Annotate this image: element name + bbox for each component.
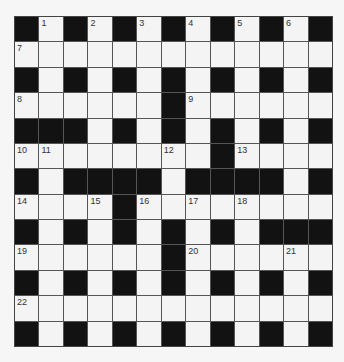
grid-cell[interactable]: [260, 195, 283, 219]
grid-cell[interactable]: 7: [15, 42, 38, 66]
grid-cell[interactable]: [162, 195, 185, 219]
grid-cell[interactable]: 17: [186, 195, 209, 219]
grid-cell[interactable]: [64, 195, 87, 219]
grid-cell[interactable]: [186, 68, 209, 92]
grid-cell[interactable]: [39, 220, 62, 244]
grid-cell[interactable]: [260, 93, 283, 117]
grid-cell[interactable]: [309, 245, 332, 269]
grid-cell[interactable]: [186, 220, 209, 244]
grid-cell[interactable]: 12: [162, 144, 185, 168]
grid-cell[interactable]: [39, 195, 62, 219]
grid-cell[interactable]: [113, 42, 136, 66]
grid-cell[interactable]: [235, 296, 258, 320]
grid-cell[interactable]: [186, 42, 209, 66]
grid-cell[interactable]: [260, 42, 283, 66]
grid-cell[interactable]: [284, 42, 307, 66]
grid-cell[interactable]: [235, 68, 258, 92]
grid-cell[interactable]: [235, 322, 258, 346]
grid-cell[interactable]: [39, 93, 62, 117]
grid-cell[interactable]: 15: [88, 195, 111, 219]
grid-cell[interactable]: [113, 245, 136, 269]
grid-cell[interactable]: [309, 296, 332, 320]
grid-cell[interactable]: [88, 119, 111, 143]
grid-cell[interactable]: [309, 144, 332, 168]
grid-cell[interactable]: [137, 220, 160, 244]
grid-cell[interactable]: 4: [186, 17, 209, 41]
grid-cell[interactable]: [284, 169, 307, 193]
grid-cell[interactable]: [137, 245, 160, 269]
grid-cell[interactable]: [64, 42, 87, 66]
grid-cell[interactable]: [211, 296, 234, 320]
grid-cell[interactable]: [260, 144, 283, 168]
grid-cell[interactable]: [88, 296, 111, 320]
grid-cell[interactable]: [137, 144, 160, 168]
grid-cell[interactable]: 5: [235, 17, 258, 41]
grid-cell[interactable]: [260, 245, 283, 269]
grid-cell[interactable]: [64, 245, 87, 269]
grid-cell[interactable]: [88, 93, 111, 117]
grid-cell[interactable]: [186, 144, 209, 168]
grid-cell[interactable]: [137, 93, 160, 117]
grid-cell[interactable]: [162, 296, 185, 320]
grid-cell[interactable]: [162, 42, 185, 66]
grid-cell[interactable]: [284, 93, 307, 117]
grid-cell[interactable]: 8: [15, 93, 38, 117]
grid-cell[interactable]: [39, 322, 62, 346]
grid-cell[interactable]: 13: [235, 144, 258, 168]
grid-cell[interactable]: [39, 42, 62, 66]
grid-cell[interactable]: 1: [39, 17, 62, 41]
grid-cell[interactable]: 20: [186, 245, 209, 269]
grid-cell[interactable]: [235, 220, 258, 244]
grid-cell[interactable]: [137, 119, 160, 143]
grid-cell[interactable]: [186, 322, 209, 346]
grid-cell[interactable]: [113, 93, 136, 117]
grid-cell[interactable]: 21: [284, 245, 307, 269]
grid-cell[interactable]: [284, 322, 307, 346]
grid-cell[interactable]: [88, 42, 111, 66]
grid-cell[interactable]: [88, 271, 111, 295]
grid-cell[interactable]: [39, 296, 62, 320]
grid-cell[interactable]: [260, 296, 283, 320]
grid-cell[interactable]: [211, 245, 234, 269]
grid-cell[interactable]: [137, 68, 160, 92]
grid-cell[interactable]: [284, 68, 307, 92]
grid-cell[interactable]: [137, 296, 160, 320]
grid-cell[interactable]: 2: [88, 17, 111, 41]
grid-cell[interactable]: 10: [15, 144, 38, 168]
grid-cell[interactable]: [162, 169, 185, 193]
grid-cell[interactable]: 11: [39, 144, 62, 168]
grid-cell[interactable]: [186, 119, 209, 143]
grid-cell[interactable]: [309, 195, 332, 219]
grid-cell[interactable]: 19: [15, 245, 38, 269]
grid-cell[interactable]: 14: [15, 195, 38, 219]
grid-cell[interactable]: [64, 93, 87, 117]
grid-cell[interactable]: [284, 195, 307, 219]
grid-cell[interactable]: [64, 296, 87, 320]
grid-cell[interactable]: [235, 93, 258, 117]
grid-cell[interactable]: 18: [235, 195, 258, 219]
grid-cell[interactable]: [235, 245, 258, 269]
grid-cell[interactable]: [88, 322, 111, 346]
grid-cell[interactable]: [309, 93, 332, 117]
grid-cell[interactable]: [235, 42, 258, 66]
grid-cell[interactable]: [284, 296, 307, 320]
grid-cell[interactable]: [137, 271, 160, 295]
grid-cell[interactable]: [113, 296, 136, 320]
grid-cell[interactable]: [284, 119, 307, 143]
grid-cell[interactable]: [235, 119, 258, 143]
grid-cell[interactable]: 16: [137, 195, 160, 219]
grid-cell[interactable]: [88, 220, 111, 244]
grid-cell[interactable]: [137, 42, 160, 66]
grid-cell[interactable]: [113, 144, 136, 168]
grid-cell[interactable]: [137, 322, 160, 346]
grid-cell[interactable]: [39, 271, 62, 295]
grid-cell[interactable]: [88, 68, 111, 92]
grid-cell[interactable]: [39, 169, 62, 193]
grid-cell[interactable]: [284, 144, 307, 168]
grid-cell[interactable]: [88, 144, 111, 168]
grid-cell[interactable]: [64, 144, 87, 168]
grid-cell[interactable]: [284, 271, 307, 295]
grid-cell[interactable]: [309, 42, 332, 66]
grid-cell[interactable]: [235, 271, 258, 295]
grid-cell[interactable]: 9: [186, 93, 209, 117]
